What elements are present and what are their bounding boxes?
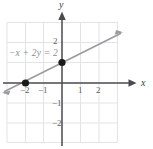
y-tick-label-minus-1: −1 [52, 99, 62, 108]
point-y-intercept [58, 59, 65, 66]
x-tick-label-2: 2 [96, 86, 101, 95]
y-tick-label-minus-2: −2 [52, 119, 62, 128]
equation-label: −x + 2y = 2 [9, 49, 58, 59]
y-axis-label: y [59, 0, 63, 10]
x-tick-label-minus-2: −2 [20, 86, 30, 95]
graph-figure: y x 2 −1 −2 −2 −1 1 2 −x + 2y = 2 [0, 0, 153, 149]
x-axis-label: x [141, 78, 145, 88]
y-axis-arrow [58, 12, 65, 21]
x-tick-label-minus-1: −1 [38, 86, 48, 95]
x-axis-arrow [129, 79, 137, 86]
x-tick-label-1: 1 [78, 86, 83, 95]
coordinate-plane-svg [0, 0, 153, 149]
y-tick-label-2: 2 [53, 37, 58, 46]
